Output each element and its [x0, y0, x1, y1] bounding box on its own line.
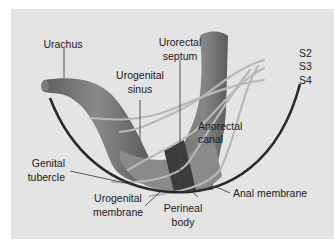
urachus-end [41, 80, 49, 92]
label-s2: S2 [299, 47, 312, 59]
label-anorectal-canal-line1: Anorectal [198, 120, 242, 132]
label-urogenital-membrane-line2: membrane [93, 206, 143, 218]
label-s4: S4 [299, 74, 312, 86]
label-perineal-body-line2: body [172, 216, 196, 228]
label-genital-tubercle-line2: tubercle [28, 171, 66, 183]
label-anal-membrane: Anal membrane [233, 187, 307, 199]
label-urogenital-membrane-line1: Urogenital [94, 192, 142, 204]
label-perineal-body-line1: Perineal [164, 202, 203, 214]
label-urogenital-sinus-line1: Urogenital [116, 69, 164, 81]
diagram-canvas: Urachus Urorectal septum Urogenital sinu… [0, 0, 334, 249]
label-urachus: Urachus [43, 38, 82, 50]
label-s3: S3 [299, 60, 312, 72]
label-urorectal-septum-line1: Urorectal [159, 36, 202, 48]
label-urogenital-sinus-line2: sinus [128, 83, 153, 95]
label-urorectal-septum-line2: septum [163, 50, 198, 62]
label-genital-tubercle-line1: Genital [32, 157, 65, 169]
label-anorectal-canal-line2: canal [198, 133, 223, 145]
